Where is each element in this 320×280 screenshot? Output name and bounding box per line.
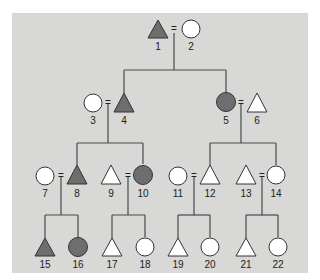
individual-label: 19 — [172, 259, 184, 270]
connector-lines — [45, 33, 278, 238]
marriage-symbol: = — [171, 23, 177, 34]
female-affected-icon-16 — [69, 238, 88, 257]
male-unaffected-icon-19 — [168, 238, 188, 256]
marriage-symbol: = — [58, 170, 64, 181]
individual-label: 14 — [270, 188, 282, 199]
marriage-symbol: = — [191, 170, 197, 181]
individual-label: 11 — [173, 188, 184, 199]
marriage-symbol: = — [105, 97, 111, 108]
individual-label: 6 — [254, 115, 260, 126]
male-unaffected-icon-6 — [247, 93, 267, 112]
female-unaffected-icon-22 — [269, 238, 287, 256]
male-affected-icon-8 — [67, 165, 87, 184]
individual-label: 13 — [240, 188, 252, 199]
female-affected-icon-10 — [134, 166, 153, 185]
marriage-symbol: = — [259, 170, 265, 181]
individual-label: 15 — [39, 259, 51, 270]
female-unaffected-icon-11 — [169, 167, 187, 185]
male-unaffected-icon-17 — [102, 238, 122, 256]
individual-label: 2 — [188, 41, 194, 52]
individual-label: 4 — [121, 115, 127, 126]
male-unaffected-icon-21 — [236, 238, 256, 256]
male-unaffected-icon-13 — [236, 165, 256, 184]
individual-label: 10 — [137, 188, 149, 199]
marriage-symbol: = — [238, 97, 244, 108]
individual-label: 12 — [204, 188, 216, 199]
individual-label: 8 — [74, 188, 80, 199]
male-affected-icon-15 — [35, 238, 55, 256]
male-unaffected-icon-9 — [101, 165, 121, 184]
individual-label: 22 — [272, 259, 284, 270]
female-unaffected-icon-18 — [136, 238, 154, 256]
pedigree-chart: = 1 2 = 3 4 = 5 6 = 7 8 = 9 10 = 11 12 =… — [0, 0, 320, 280]
female-unaffected-icon-7 — [36, 167, 54, 185]
individual-label: 9 — [108, 188, 114, 199]
individual-label: 18 — [139, 259, 151, 270]
individual-label: 1 — [155, 41, 161, 52]
individual-label: 21 — [240, 259, 252, 270]
male-affected-icon-4 — [114, 93, 134, 112]
male-unaffected-icon-12 — [200, 165, 220, 184]
individual-label: 20 — [204, 259, 216, 270]
female-unaffected-icon-14 — [267, 166, 285, 184]
individual-label: 3 — [90, 115, 96, 126]
individual-label: 16 — [72, 259, 84, 270]
female-unaffected-icon-20 — [201, 238, 219, 256]
female-unaffected-icon-3 — [84, 94, 102, 112]
female-unaffected-icon-2 — [182, 20, 200, 38]
marriage-symbol: = — [125, 170, 131, 181]
individual-label: 17 — [106, 259, 118, 270]
individual-label: 7 — [42, 188, 48, 199]
male-affected-icon-1 — [148, 20, 168, 38]
individual-label: 5 — [223, 115, 229, 126]
female-affected-icon-5 — [217, 93, 236, 112]
